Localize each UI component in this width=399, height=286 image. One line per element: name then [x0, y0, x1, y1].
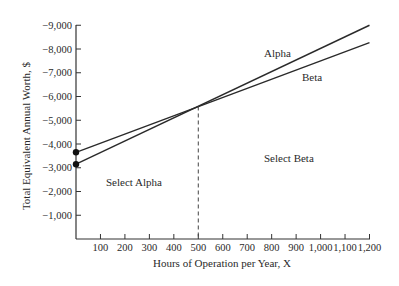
- x-tick-label: 200: [117, 242, 133, 253]
- x-tick-label: 1,000: [309, 242, 333, 253]
- y-tick-label: −2,000: [42, 186, 72, 197]
- alpha-start-marker: [73, 161, 79, 167]
- y-tick-label: −7,000: [42, 67, 72, 78]
- y-tick-label: −5,000: [42, 115, 72, 126]
- breakeven-chart: −1,000−2,000−3,000−4,000−5,000−6,000−7,0…: [0, 0, 399, 286]
- x-tick-label: 300: [142, 242, 158, 253]
- beta-series-label: Beta: [302, 71, 322, 83]
- x-tick-label: 1,100: [333, 242, 357, 253]
- x-tick-label: 100: [93, 242, 109, 253]
- axes: [76, 25, 370, 239]
- y-tick-label: −4,000: [42, 139, 72, 150]
- select-alpha-label: Select Alpha: [106, 176, 162, 188]
- beta-line: [76, 43, 370, 153]
- x-tick-label: 800: [264, 242, 280, 253]
- x-tick-label: 400: [166, 242, 182, 253]
- alpha-line: [76, 25, 370, 164]
- x-tick-label: 600: [215, 242, 231, 253]
- y-tick-label: −8,000: [42, 44, 72, 55]
- beta-start-marker: [73, 149, 79, 155]
- select-beta-label: Select Beta: [264, 152, 314, 164]
- y-tick-label: −9,000: [42, 20, 72, 31]
- x-axis-title: Hours of Operation per Year, X: [153, 257, 291, 269]
- alpha-series-label: Alpha: [264, 47, 291, 59]
- x-tick-label: 500: [190, 242, 206, 253]
- series-group: [73, 25, 370, 167]
- y-tick-label: −3,000: [42, 162, 72, 173]
- x-tick-label: 1,200: [358, 242, 382, 253]
- x-ticks: 1002003004005006007008009001,0001,1001,2…: [93, 234, 382, 253]
- x-tick-label: 700: [239, 242, 255, 253]
- y-tick-label: −6,000: [42, 91, 72, 102]
- y-axis-title: Total Equivalent Annual Worth, $: [20, 61, 32, 210]
- y-ticks: −1,000−2,000−3,000−4,000−5,000−6,000−7,0…: [42, 20, 81, 221]
- x-tick-label: 900: [288, 242, 304, 253]
- y-tick-label: −1,000: [42, 210, 72, 221]
